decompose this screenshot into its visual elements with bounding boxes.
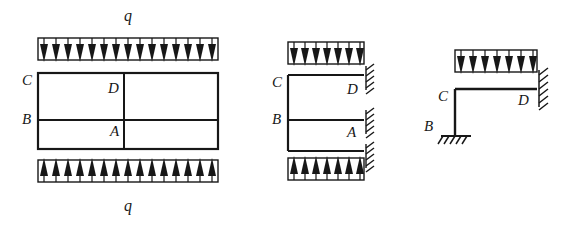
- diagram-1-bottom-load: [38, 158, 218, 182]
- diagram-2-node-label-d: D: [347, 82, 358, 97]
- diagram-2-bottom-load-arrows: [290, 156, 364, 180]
- diagram-1-bottom-load-arrows: [40, 158, 216, 182]
- diagram-3-ground-support-b: [438, 136, 471, 144]
- diagram-3-node-label-b: B: [424, 119, 433, 134]
- structural-diagrams-figure: [0, 0, 574, 231]
- diagram-3-top-load: [455, 50, 537, 74]
- diagram-2-bottom-load: [288, 156, 364, 180]
- diagram-1-node-label-d: D: [108, 81, 119, 96]
- diagram-2-node-label-a: A: [347, 125, 356, 140]
- diagram-1-top-load: [38, 38, 218, 62]
- diagram-3-node-label-c: C: [438, 89, 448, 104]
- diagram-1-group: [38, 38, 218, 182]
- diagram-2-group: [288, 42, 374, 180]
- diagram-1-top-load-label: q: [124, 8, 132, 24]
- diagram-3-group: [438, 50, 548, 144]
- diagram-1-node-label-b: B: [22, 112, 31, 127]
- diagram-3-top-load-arrows: [457, 50, 537, 74]
- diagram-3-node-label-d: D: [518, 93, 529, 108]
- diagram-1-frame: [38, 73, 218, 149]
- diagram-2-top-load: [288, 42, 364, 66]
- diagram-3-wall-support-d: [539, 68, 548, 110]
- diagram-2-node-label-b: B: [272, 112, 281, 127]
- diagram-1-top-load-arrows: [40, 38, 216, 62]
- diagram-1-node-label-c: C: [22, 73, 32, 88]
- diagram-2-wall-support-bottom: [366, 142, 374, 172]
- diagram-1-bottom-load-label: q: [124, 198, 132, 214]
- diagram-canvas: q q C B D A C B D A C B D: [0, 0, 574, 231]
- diagram-2-top-load-arrows: [290, 42, 364, 66]
- diagram-2-wall-support-top: [366, 64, 374, 94]
- diagram-2-node-label-c: C: [272, 75, 282, 90]
- diagram-1-node-label-a: A: [110, 124, 119, 139]
- diagram-2-wall-support-middle: [366, 108, 374, 138]
- diagrams-svg: [0, 0, 574, 231]
